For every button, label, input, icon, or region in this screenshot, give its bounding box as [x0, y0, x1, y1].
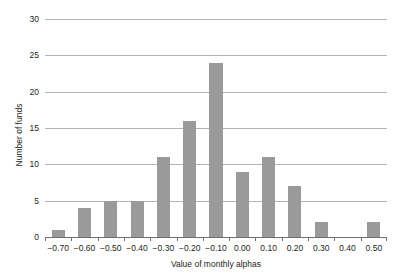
x-tick-label: 0.50 [366, 244, 383, 253]
bar [131, 201, 144, 237]
bar [236, 172, 249, 237]
x-tick-label: −0.20 [179, 244, 201, 253]
x-tick-label: −0.60 [74, 244, 96, 253]
y-tick-label: 5 [34, 196, 39, 205]
plot-area: 051015202530 [45, 19, 387, 237]
x-tick-mark [229, 237, 230, 241]
x-tick-mark [282, 237, 283, 241]
x-tick-mark [334, 237, 335, 241]
bar [209, 63, 222, 237]
bar [288, 186, 301, 237]
x-tick-mark [150, 237, 151, 241]
bar [157, 157, 170, 237]
histogram-figure: Number of funds 051015202530 −0.70−0.60−… [0, 0, 397, 277]
x-tick-label: 0.10 [260, 244, 277, 253]
x-tick-label: −0.40 [126, 244, 148, 253]
x-tick-mark [177, 237, 178, 241]
x-tick-mark [361, 237, 362, 241]
x-axis-title: Value of monthly alphas [45, 259, 387, 269]
bar [183, 121, 196, 237]
y-tick-label: 25 [30, 51, 39, 60]
y-tick-label: 15 [30, 124, 39, 133]
y-tick-label: 10 [30, 160, 39, 169]
bar [262, 157, 275, 237]
bar [52, 230, 65, 237]
x-axis-ticks: −0.70−0.60−0.50−0.40−0.30−0.20−0.100.000… [45, 237, 387, 251]
x-tick-mark [45, 237, 46, 241]
x-tick-mark [203, 237, 204, 241]
x-tick-mark [98, 237, 99, 241]
x-tick-label: 0.30 [313, 244, 330, 253]
x-tick-mark [71, 237, 72, 241]
x-tick-label: 0.20 [287, 244, 304, 253]
x-tick-mark [255, 237, 256, 241]
x-tick-label: −0.30 [153, 244, 175, 253]
x-tick-mark [124, 237, 125, 241]
x-tick-label: −0.50 [100, 244, 122, 253]
x-tick-label: 0.00 [234, 244, 251, 253]
y-axis-title: Number of funds [14, 75, 24, 195]
bar [78, 208, 91, 237]
x-tick-mark [386, 237, 387, 241]
bars-layer [45, 19, 387, 237]
y-tick-label: 20 [30, 87, 39, 96]
bar [367, 222, 380, 237]
y-tick-label: 0 [34, 233, 39, 242]
x-tick-label: −0.70 [47, 244, 69, 253]
chart-title [0, 0, 397, 5]
y-tick-label: 30 [30, 15, 39, 24]
bar [104, 201, 117, 237]
x-tick-label: −0.10 [205, 244, 227, 253]
bar [315, 222, 328, 237]
x-tick-label: 0.40 [339, 244, 356, 253]
x-tick-mark [308, 237, 309, 241]
